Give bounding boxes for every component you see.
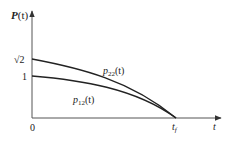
x-tick-tf: tf bbox=[172, 121, 178, 134]
label-p12: p12(t) bbox=[72, 94, 94, 107]
y-tick-one: 1 bbox=[22, 71, 27, 82]
label-p22: p22(t) bbox=[102, 65, 124, 78]
chart-svg: P(t) √2 1 0 tf t p22(t) p12(t) bbox=[0, 0, 232, 142]
x-tick-origin: 0 bbox=[30, 122, 35, 133]
y-axis-label: P(t) bbox=[11, 9, 28, 22]
x-axis-label: t bbox=[213, 121, 216, 132]
curve-p12 bbox=[32, 76, 176, 118]
y-tick-sqrt2: √2 bbox=[14, 54, 25, 65]
